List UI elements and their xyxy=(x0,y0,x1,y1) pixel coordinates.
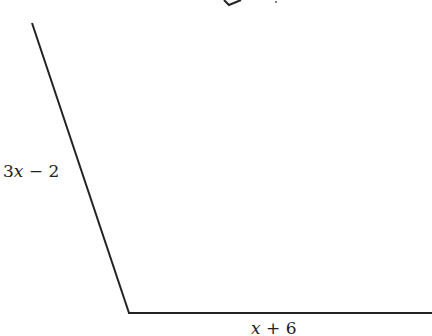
geometry-figure xyxy=(0,0,432,336)
marker-dot xyxy=(275,1,277,3)
left-side-label-text: 3x − 2 xyxy=(3,161,59,181)
bottom-side-label: x + 6 xyxy=(251,318,296,336)
bottom-side-label-text: x + 6 xyxy=(251,318,296,336)
right-angle-marker-fragment xyxy=(224,0,241,5)
left-side-label: 3x − 2 xyxy=(3,161,59,181)
